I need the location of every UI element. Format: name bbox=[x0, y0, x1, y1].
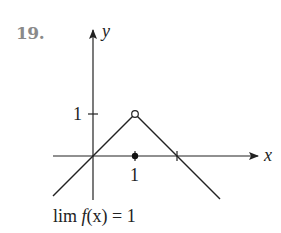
y-tick-label: 1 bbox=[73, 104, 82, 124]
caption-lim: lim bbox=[53, 206, 82, 226]
open-circle-marker bbox=[132, 111, 139, 118]
caption-rest: (x) = 1 bbox=[87, 206, 136, 226]
y-axis-label: y bbox=[100, 21, 110, 41]
filled-dot-marker bbox=[132, 153, 138, 159]
function-graph: y x 1 1 bbox=[0, 0, 281, 233]
right-branch-line bbox=[137, 116, 220, 199]
limit-caption: lim f(x) = 1 bbox=[53, 206, 136, 227]
x-axis-label: x bbox=[263, 145, 272, 165]
x-tick-label: 1 bbox=[130, 165, 139, 185]
